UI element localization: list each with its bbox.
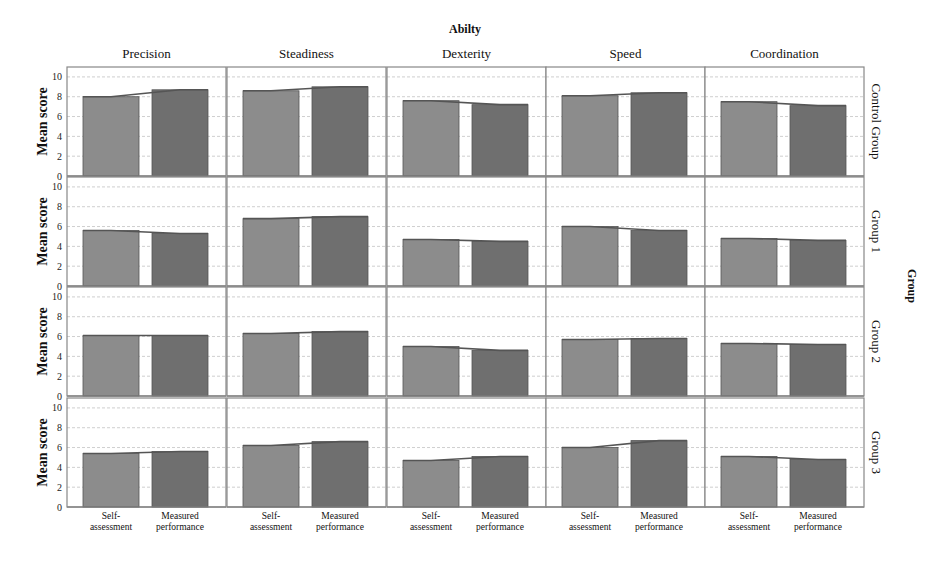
bar-self-assessment (243, 219, 299, 286)
panel (227, 287, 386, 396)
bar-measured-performance (152, 233, 208, 286)
x-category-label: Self- (740, 511, 758, 521)
bar-measured-performance (472, 105, 528, 176)
bar-self-assessment (83, 97, 139, 176)
x-category-label: assessment (250, 522, 293, 532)
bar-measured-performance (312, 442, 368, 507)
x-category-label: Measured (799, 511, 837, 521)
y-axis-label-group: Mean score (35, 418, 50, 487)
panel (227, 398, 386, 507)
y-axis-label-group: Mean score (35, 307, 50, 376)
bar-self-assessment (243, 446, 299, 507)
bar-measured-performance (790, 106, 846, 176)
row-label: Group 1 (869, 210, 884, 253)
panel-grid: PrecisionSteadinessDexteritySpeedCoordin… (35, 46, 884, 532)
y-tick-label: 10 (52, 181, 62, 192)
panel (546, 67, 705, 176)
panel (705, 177, 864, 286)
panel (387, 287, 546, 396)
panel (705, 398, 864, 507)
y-tick-label: 2 (57, 151, 62, 162)
y-tick-label: 6 (57, 442, 62, 453)
bar-self-assessment (721, 102, 777, 176)
bar-self-assessment (721, 343, 777, 396)
y-tick-label: 8 (57, 91, 62, 102)
x-category-label: Self- (102, 511, 120, 521)
panel (67, 287, 226, 396)
x-category-label: assessment (569, 522, 612, 532)
x-category-label: Self- (422, 511, 440, 521)
row-label-group: Group 3 (869, 431, 884, 474)
y-axis-label-group: Mean score (35, 87, 50, 156)
bar-measured-performance (631, 441, 687, 507)
x-category-label: performance (316, 522, 364, 532)
bar-self-assessment (562, 340, 618, 396)
y-tick-label: 8 (57, 422, 62, 433)
bar-self-assessment (83, 453, 139, 507)
faceted-bar-chart: Abilty Group PrecisionSteadinessDexterit… (0, 0, 937, 561)
bar-measured-performance (152, 90, 208, 176)
bar-measured-performance (790, 459, 846, 507)
bar-measured-performance (312, 332, 368, 396)
y-tick-label: 6 (57, 331, 62, 342)
panel (227, 67, 386, 176)
x-category-label: assessment (410, 522, 453, 532)
y-tick-label: 8 (57, 201, 62, 212)
panel (387, 177, 546, 286)
y-tick-label: 2 (57, 261, 62, 272)
y-tick-label: 8 (57, 311, 62, 322)
x-category-label: Measured (481, 511, 519, 521)
y-tick-label: 0 (57, 281, 62, 292)
column-header: Dexterity (442, 46, 492, 61)
y-tick-label: 10 (52, 291, 62, 302)
y-tick-label: 4 (57, 131, 62, 142)
y-tick-label: 10 (52, 71, 62, 82)
y-tick-label: 0 (57, 171, 62, 182)
panel (546, 398, 705, 507)
bar-self-assessment (562, 96, 618, 176)
bar-self-assessment (403, 239, 459, 286)
bar-measured-performance (472, 456, 528, 507)
x-category-label: performance (156, 522, 204, 532)
row-label-group: Control Group (869, 83, 884, 159)
panel (67, 67, 226, 176)
panel (387, 67, 546, 176)
y-tick-label: 2 (57, 371, 62, 382)
x-category-label: assessment (90, 522, 133, 532)
y-tick-label: 2 (57, 482, 62, 493)
bar-measured-performance (790, 344, 846, 396)
y-tick-label: 4 (57, 351, 62, 362)
y-tick-label: 6 (57, 221, 62, 232)
panel (705, 287, 864, 396)
x-category-label: performance (476, 522, 524, 532)
panel (705, 67, 864, 176)
y-tick-label: 10 (52, 402, 62, 413)
bar-measured-performance (631, 93, 687, 176)
row-label-group: Group 2 (869, 320, 884, 363)
x-category-label: Measured (161, 511, 199, 521)
x-category-label: Self- (262, 511, 280, 521)
x-category-label: assessment (728, 522, 771, 532)
bar-self-assessment (403, 346, 459, 396)
y-axis-label: Mean score (35, 87, 50, 156)
y-axis-label-group: Mean score (35, 197, 50, 266)
y-tick-label: 4 (57, 462, 62, 473)
bar-measured-performance (312, 87, 368, 176)
panel (67, 398, 226, 507)
bar-self-assessment (721, 456, 777, 507)
bar-measured-performance (152, 452, 208, 507)
panel (387, 398, 546, 507)
y-tick-label: 4 (57, 241, 62, 252)
column-header: Speed (610, 46, 642, 61)
x-category-label: Measured (321, 511, 359, 521)
bar-measured-performance (472, 241, 528, 286)
y-tick-label: 0 (57, 502, 62, 513)
bar-self-assessment (403, 460, 459, 507)
column-header: Steadiness (279, 46, 334, 61)
bar-measured-performance (472, 350, 528, 396)
x-category-label: Self- (581, 511, 599, 521)
row-label-group: Group 1 (869, 210, 884, 253)
y-axis-label: Mean score (35, 307, 50, 376)
bar-self-assessment (243, 91, 299, 176)
panel (546, 287, 705, 396)
